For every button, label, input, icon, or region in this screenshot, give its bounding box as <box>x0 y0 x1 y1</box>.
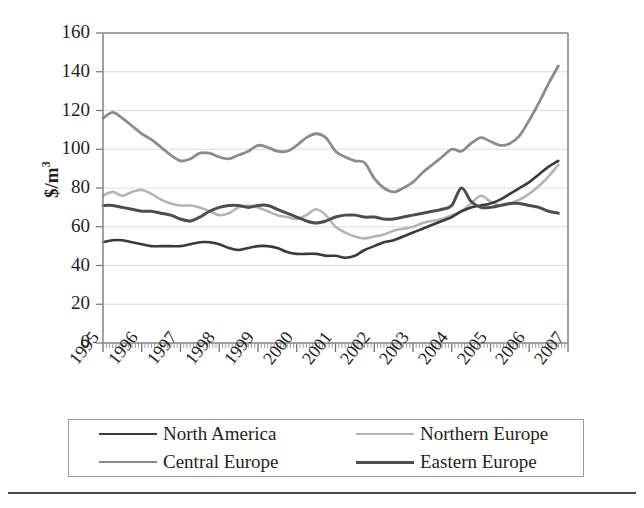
legend-line-swatch <box>356 433 414 435</box>
legend: North AmericaNorthern EuropeCentral Euro… <box>68 419 584 477</box>
legend-item[interactable]: Eastern Europe <box>326 451 583 473</box>
legend-item[interactable]: Central Europe <box>69 451 326 473</box>
legend-grid: North AmericaNorthern EuropeCentral Euro… <box>69 420 583 476</box>
y-axis-title-exponent: 3 <box>39 161 53 167</box>
y-axis-tick-label: 60 <box>28 215 90 237</box>
y-axis-tick-marks <box>96 33 103 343</box>
y-axis-tick-label: 20 <box>28 292 90 314</box>
line-chart-svg <box>0 0 644 360</box>
data-series-group <box>103 66 558 258</box>
legend-label: Northern Europe <box>420 423 548 445</box>
y-axis-tick-label: 80 <box>28 176 90 198</box>
legend-item[interactable]: North America <box>69 423 326 445</box>
bottom-divider <box>8 492 636 494</box>
y-axis-tick-label: 100 <box>28 137 90 159</box>
legend-line-swatch <box>99 461 157 463</box>
legend-label: North America <box>163 423 276 445</box>
figure-container: $/m3 160140120100806040200 1995199619971… <box>0 0 644 508</box>
legend-item[interactable]: Northern Europe <box>326 423 583 445</box>
y-axis-tick-label: 40 <box>28 254 90 276</box>
y-axis-tick-label: 140 <box>28 60 90 82</box>
y-axis-tick-label: 160 <box>28 21 90 43</box>
legend-label: Central Europe <box>163 451 279 473</box>
legend-label: Eastern Europe <box>420 451 537 473</box>
gridlines <box>103 33 568 343</box>
plot-area <box>0 0 644 360</box>
y-axis-tick-label: 120 <box>28 99 90 121</box>
legend-line-swatch <box>99 433 157 435</box>
legend-line-swatch <box>356 461 414 464</box>
